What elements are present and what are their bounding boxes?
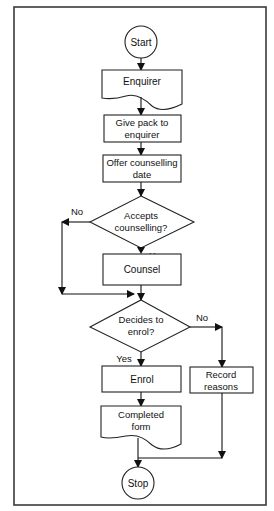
give-pack-line1: Give pack to	[116, 117, 169, 128]
stop-label: Stop	[128, 478, 149, 489]
enrol-label: Enrol	[130, 374, 153, 385]
decides-no-label: No	[196, 312, 208, 323]
stop-node: Stop	[122, 467, 154, 499]
counsel-node: Counsel	[103, 254, 181, 285]
decides-yes-label: Yes	[116, 353, 132, 364]
offer-date-line2: date	[133, 169, 152, 180]
flowchart-canvas: Start Enquirer Give pack to enquirer Off…	[0, 0, 274, 511]
accepts-line2: counselling?	[115, 222, 168, 233]
enquirer-label: Enquirer	[123, 76, 161, 87]
start-label: Start	[130, 37, 151, 48]
start-node: Start	[125, 26, 157, 58]
record-line2: reasons	[204, 381, 238, 392]
record-node: Record reasons	[190, 367, 253, 393]
completed-form-line1: Completed	[118, 409, 164, 420]
decides-line2: enrol?	[128, 326, 154, 337]
offer-date-node: Offer counselling date	[103, 155, 181, 182]
offer-date-line1: Offer counselling	[106, 157, 177, 168]
completed-form-line2: form	[132, 421, 151, 432]
give-pack-line2: enquirer	[125, 129, 160, 140]
record-line1: Record	[206, 369, 237, 380]
accepts-no-label: No	[71, 206, 83, 217]
decides-line1: Decides to	[119, 314, 164, 325]
counsel-label: Counsel	[124, 264, 161, 275]
give-pack-node: Give pack to enquirer	[104, 115, 181, 142]
accepts-line1: Accepts	[124, 210, 158, 221]
enrol-node: Enrol	[102, 366, 181, 392]
